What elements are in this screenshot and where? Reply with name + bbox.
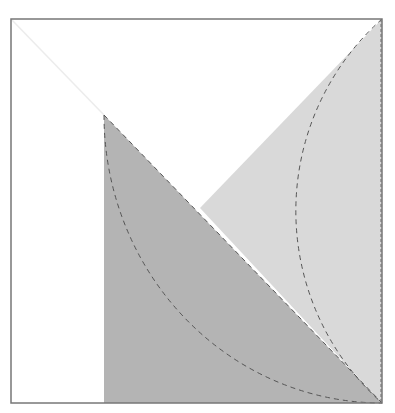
geometric-diagram: [0, 0, 395, 413]
faint-diagonal-line: [11, 19, 104, 115]
